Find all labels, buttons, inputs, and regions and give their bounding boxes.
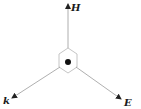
center-dot — [65, 59, 71, 65]
em-wave-diagram: H k E — [0, 0, 141, 109]
h-vector-label: H — [70, 2, 81, 13]
k-vector-label: k — [3, 95, 10, 106]
e-vector-arrow — [76, 67, 121, 99]
k-vector-arrow — [12, 67, 60, 98]
e-vector-label: E — [123, 97, 132, 108]
